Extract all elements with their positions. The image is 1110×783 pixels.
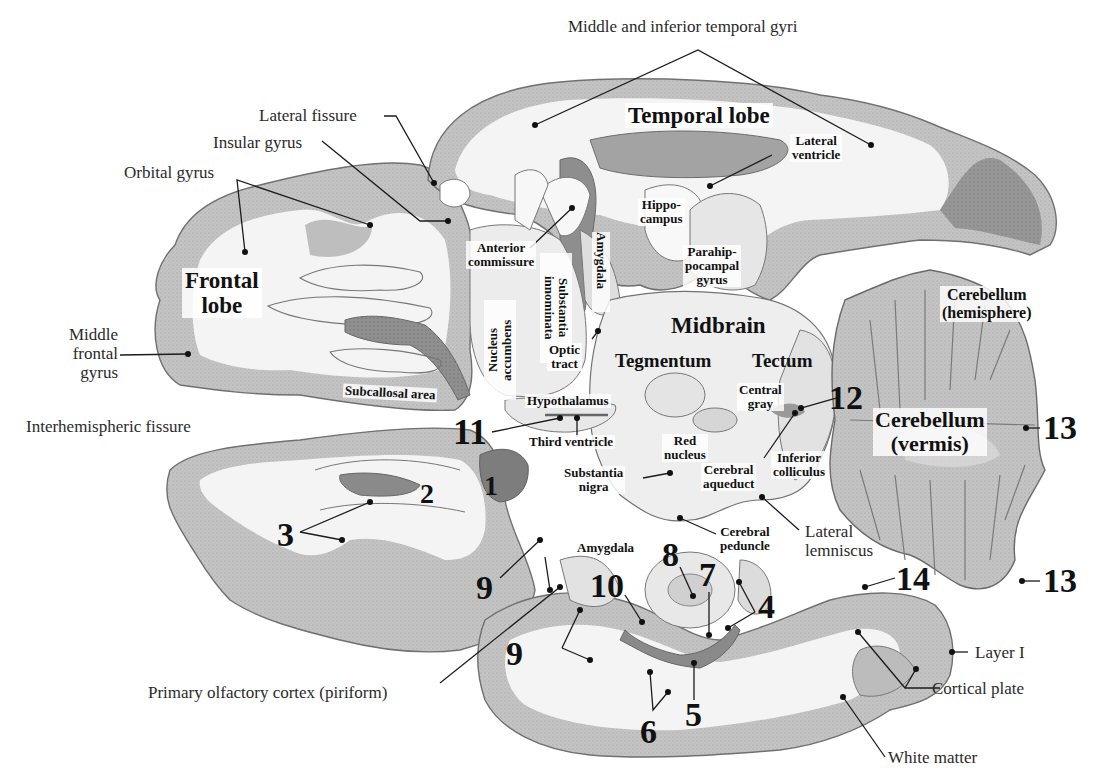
callout-14: 14 <box>896 562 930 596</box>
frontal-lobe-label: Frontal lobe <box>182 268 262 318</box>
callout-7: 7 <box>699 558 716 592</box>
callout-12: 12 <box>829 381 863 415</box>
cerebral-aqueduct-label: Cerebral aqueduct <box>701 463 756 491</box>
lateral-fissure-label: Lateral fissure <box>259 106 357 125</box>
hypothalamus-label: Hypothalamus <box>525 394 611 408</box>
parahippocampal-gyrus-label: Parahip- pocampal gyrus <box>683 245 741 287</box>
cerebral-peduncle-label: Cerebral peduncle <box>718 525 772 553</box>
callout-9-lower: 9 <box>506 637 523 671</box>
cerebellum-vermis-label: Cerebellum (vermis) <box>873 408 987 456</box>
callout-2: 2 <box>420 477 434 511</box>
callout-13-lower: 13 <box>1043 564 1077 598</box>
callout-5: 5 <box>685 698 702 732</box>
red-nucleus-label: Red nucleus <box>662 434 708 462</box>
tegmentum-label: Tegmentum <box>615 348 711 374</box>
white-matter-label: White matter <box>888 748 977 767</box>
lateral-ventricle-label: Lateral ventricle <box>790 134 842 162</box>
callout-3: 3 <box>277 518 294 552</box>
central-gray-label: Central gray <box>737 383 784 411</box>
optic-tract-label: Optic tract <box>547 343 582 371</box>
anterior-commissure-label: Anterior commissure <box>466 241 536 269</box>
interhemispheric-fissure-label: Interhemispheric fissure <box>26 417 191 436</box>
brain-section-illustration <box>0 0 1110 783</box>
middle-inferior-temporal-gyri-label: Middle and inferior temporal gyri <box>568 17 797 36</box>
layer-i-label: Layer I <box>975 643 1025 662</box>
frontal-lobe-lower <box>167 428 535 652</box>
callout-4: 4 <box>758 590 775 624</box>
middle-frontal-gyrus-label: Middle frontal gyrus <box>58 325 118 382</box>
nucleus-accumbens-label: Nucleus accumbens <box>484 300 516 400</box>
hippocampus-label: Hippo- campus <box>638 198 685 226</box>
callout-1: 1 <box>484 469 498 503</box>
lateral-lemniscus-label: Lateral lemniscus <box>805 522 873 560</box>
third-ventricle-label: Third ventricle <box>527 435 615 449</box>
substantia-nigra-label: Substantia nigra <box>562 466 625 494</box>
cortical-plate-label: Cortical plate <box>932 679 1024 698</box>
amygdala-lower-label: Amygdala <box>575 541 636 555</box>
temporal-lobe-label: Temporal lobe <box>625 103 773 128</box>
primary-olfactory-cortex-label: Primary olfactory cortex (piriform) <box>148 683 387 702</box>
callout-9-upper: 9 <box>476 571 493 605</box>
callout-6: 6 <box>640 715 657 749</box>
midbrain-label: Midbrain <box>668 313 769 338</box>
insular-gyrus-label: Insular gyrus <box>213 133 302 152</box>
orbital-gyrus-label: Orbital gyrus <box>124 163 214 182</box>
inferior-colliculus-label: Inferior colliculus <box>771 451 827 479</box>
callout-11: 11 <box>453 415 487 449</box>
cerebellum-hemisphere-label: Cerebellum (hemisphere) <box>940 286 1033 322</box>
amygdala-upper-label: Amygdala <box>592 232 610 312</box>
callout-8: 8 <box>662 538 679 572</box>
callout-13-upper: 13 <box>1043 411 1077 445</box>
callout-10: 10 <box>590 569 624 603</box>
tectum-label: Tectum <box>752 348 813 374</box>
